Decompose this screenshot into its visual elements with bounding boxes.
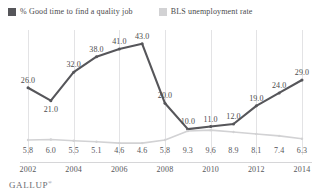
x-tick-2010: 2010 [202, 165, 219, 174]
value-label-good-time: 26.0 [21, 77, 35, 85]
value-label-unemployment: 5.8 [23, 147, 33, 155]
data-point [95, 141, 97, 143]
data-point [141, 142, 143, 144]
data-point [278, 135, 280, 137]
value-label-good-time: 43.0 [135, 33, 149, 41]
data-point [164, 139, 166, 141]
value-label-good-time: 24.0 [272, 82, 286, 90]
value-label-unemployment: 5.5 [69, 147, 79, 155]
value-label-unemployment: 6.0 [46, 147, 56, 155]
data-point [141, 42, 144, 45]
data-point [118, 142, 120, 144]
series-line-0 [28, 44, 302, 129]
x-tick-2014: 2014 [294, 165, 311, 174]
x-axis-tick-labels: 2002200420062008201020122014 [20, 165, 310, 177]
data-point [209, 129, 211, 131]
data-point [255, 133, 257, 135]
value-label-good-time: 21.0 [44, 106, 58, 114]
value-label-unemployment: 9.3 [183, 147, 193, 155]
value-label-good-time: 38.0 [89, 46, 103, 54]
value-label-unemployment: 8.1 [251, 147, 261, 155]
data-point [232, 131, 234, 133]
value-label-unemployment: 8.9 [228, 147, 238, 155]
data-point [209, 125, 212, 128]
data-point [72, 140, 74, 142]
chart-container: % Good time to find a quality job BLS un… [0, 0, 324, 195]
value-label-unemployment: 5.1 [91, 147, 101, 155]
value-label-unemployment: 5.8 [160, 147, 170, 155]
legend-item-good-time: % Good time to find a quality job [8, 7, 133, 16]
legend-label-unemployment: BLS unemployment rate [171, 7, 253, 16]
value-label-good-time: 19.0 [249, 95, 263, 103]
data-point [187, 130, 189, 132]
data-point [301, 78, 304, 81]
data-point [232, 122, 235, 125]
value-label-unemployment: 9.6 [206, 147, 216, 155]
value-label-unemployment: 6.3 [297, 147, 307, 155]
value-label-good-time: 20.0 [158, 92, 172, 100]
data-point [27, 139, 29, 141]
value-label-unemployment: 7.4 [274, 147, 284, 155]
value-label-good-time: 10.0 [181, 118, 195, 126]
value-label-good-time: 29.0 [295, 69, 309, 77]
x-tick-2012: 2012 [248, 165, 265, 174]
x-tick-2008: 2008 [157, 165, 174, 174]
data-point [72, 71, 75, 74]
data-point [301, 138, 303, 140]
x-tick-2002: 2002 [20, 165, 37, 174]
data-point [49, 99, 52, 102]
data-point [255, 104, 258, 107]
value-label-unemployment: 4.6 [137, 147, 147, 155]
legend-swatch-dark-icon [8, 8, 16, 16]
data-point [278, 91, 281, 94]
value-label-good-time: 32.0 [66, 61, 80, 69]
value-label-good-time: 41.0 [112, 38, 126, 46]
gallup-logo: GALLUP® [9, 180, 53, 190]
trademark-icon: ® [48, 180, 52, 185]
legend-swatch-light-icon [159, 8, 167, 16]
legend-item-unemployment: BLS unemployment rate [159, 7, 253, 16]
value-label-good-time: 11.0 [204, 116, 218, 124]
plot-area: 26.021.032.038.041.043.020.010.011.012.0… [20, 30, 310, 163]
data-point [164, 102, 167, 105]
data-point [95, 55, 98, 58]
brand-text: GALLUP [9, 180, 48, 190]
x-tick-2006: 2006 [111, 165, 128, 174]
chart-legend: % Good time to find a quality job BLS un… [8, 7, 253, 16]
x-tick-2004: 2004 [65, 165, 82, 174]
value-label-good-time: 12.0 [226, 113, 240, 121]
data-point [50, 138, 52, 140]
data-point [27, 86, 30, 89]
data-point [118, 47, 121, 50]
legend-label-good-time: % Good time to find a quality job [20, 7, 133, 16]
value-label-unemployment: 4.6 [114, 147, 124, 155]
